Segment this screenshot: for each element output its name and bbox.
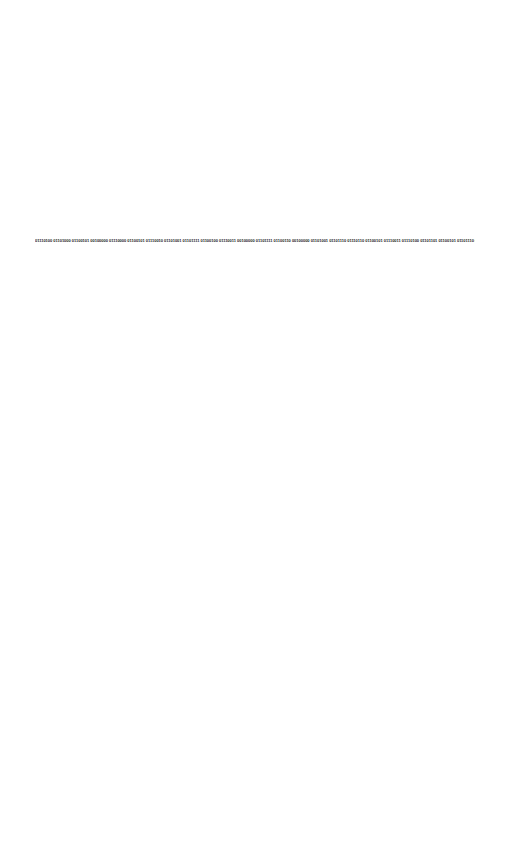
document-page: 01110100 01101000 01100101 00100000 0111…: [0, 0, 507, 864]
binary-text-line: 01110100 01101000 01100101 00100000 0111…: [35, 238, 475, 244]
